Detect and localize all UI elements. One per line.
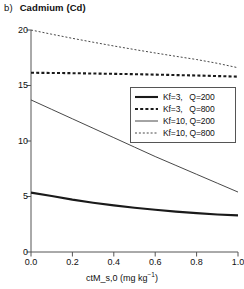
legend-item-label: Kf=3, Q=200	[163, 92, 215, 102]
x-axis-title-text: ctM_s,0 (mg kg	[86, 273, 148, 283]
x-axis-tick-label: 0.8	[182, 258, 212, 267]
chart-series-line	[31, 193, 238, 216]
y-axis-tick-label: 15	[4, 81, 28, 90]
y-axis-tick-label: 0	[4, 248, 28, 257]
x-axis-title-tail: )	[155, 273, 158, 283]
x-axis-tick-label: 0.0	[16, 258, 46, 267]
y-axis-tick-label: 10	[4, 137, 28, 146]
legend-item[interactable]: Kf=3, Q=200	[134, 91, 233, 103]
legend-item[interactable]: Kf=10, Q=200	[134, 115, 233, 127]
legend-item-label: Kf=10, Q=200	[163, 116, 215, 126]
legend-item-label: Kf=10, Q=800	[163, 128, 215, 138]
x-axis-tick-label: 1.0	[223, 258, 244, 267]
figure-panel-cadmium: b)Cadmium (Cd) 05101520 0.00.20.40.60.81…	[0, 0, 244, 289]
x-axis-tick-label: 0.6	[140, 258, 170, 267]
legend-item[interactable]: Kf=10, Q=800	[134, 127, 233, 139]
legend-item-label: Kf=3, Q=800	[163, 104, 215, 114]
legend-line-swatch-icon	[134, 115, 159, 127]
chart-series-line	[31, 73, 238, 77]
chart-series-line	[31, 30, 238, 68]
x-axis-tick-label: 0.2	[57, 258, 87, 267]
x-axis-title: ctM_s,0 (mg kg−1)	[0, 273, 244, 283]
legend-line-swatch-icon	[134, 127, 159, 139]
x-axis-tick-label: 0.4	[99, 258, 129, 267]
x-axis-unit-exponent: −1	[148, 273, 155, 283]
legend-item[interactable]: Kf=3, Q=800	[134, 103, 233, 115]
x-axis-tick-labels: 0.00.20.40.60.81.0	[0, 258, 244, 270]
x-axis-ticks	[31, 252, 238, 257]
chart-legend: Kf=3, Q=200Kf=3, Q=800Kf=10, Q=200Kf=10,…	[130, 87, 236, 143]
y-axis-tick-label: 20	[4, 26, 28, 35]
legend-line-swatch-icon	[134, 103, 159, 115]
y-axis-tick-label: 5	[4, 192, 28, 201]
legend-line-swatch-icon	[134, 91, 159, 103]
chart-plot-area	[0, 0, 244, 289]
y-axis-tick-labels: 05101520	[0, 0, 28, 289]
